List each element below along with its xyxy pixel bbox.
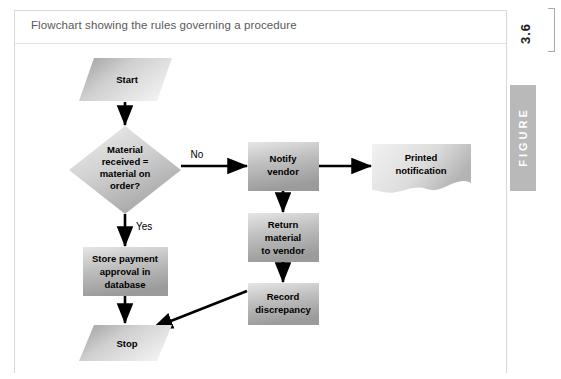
node-printed-label-line2: notification bbox=[395, 165, 446, 176]
node-decision-label-line1: Material bbox=[107, 144, 143, 155]
node-stop-label: Stop bbox=[116, 338, 137, 349]
node-store-label-line2: approval in bbox=[100, 266, 151, 277]
node-store-label-line3: database bbox=[104, 279, 145, 290]
node-decision-label-line2: received = bbox=[102, 156, 149, 167]
node-start-label: Start bbox=[116, 74, 138, 85]
node-decision-label-line3: material on bbox=[100, 168, 151, 179]
node-notify-label-line2: vendor bbox=[267, 166, 299, 177]
node-notify-label-line1: Notify bbox=[270, 153, 298, 164]
figure-number-text: 3.6 bbox=[518, 18, 533, 50]
node-stop[interactable]: Stop bbox=[79, 325, 172, 361]
flowchart-diagram: No Yes Start Material received = materia… bbox=[15, 44, 506, 373]
figure-frame: Flowchart showing the rules governing a … bbox=[14, 10, 507, 373]
node-record-label-line1: Record bbox=[267, 291, 300, 302]
node-record-label-line2: discrepancy bbox=[255, 304, 311, 315]
node-decision[interactable]: Material received = material on order? bbox=[69, 126, 181, 214]
flowchart-svg: No Yes Start Material received = materia… bbox=[15, 44, 508, 373]
node-decision-label-line4: order? bbox=[110, 180, 140, 191]
node-printed-notification[interactable]: Printed notification bbox=[372, 144, 471, 193]
edge-label-yes: Yes bbox=[136, 221, 152, 232]
node-store-label-line1: Store payment bbox=[92, 253, 159, 264]
edge-label-no: No bbox=[191, 149, 204, 160]
edge-record-to-stop bbox=[153, 291, 247, 328]
node-notify-vendor[interactable]: Notify vendor bbox=[248, 142, 319, 191]
figure-number: 3.6 bbox=[512, 8, 538, 60]
node-start[interactable]: Start bbox=[79, 58, 172, 101]
node-store-payment[interactable]: Store payment approval in database bbox=[83, 247, 168, 296]
node-printed-label-line1: Printed bbox=[405, 152, 438, 163]
figure-label-block: FIGURE bbox=[510, 85, 536, 191]
figure-label-text: FIGURE bbox=[517, 84, 529, 190]
figure-caption-text: Flowchart showing the rules governing a … bbox=[31, 19, 297, 31]
node-return-label-line1: Return bbox=[268, 219, 299, 230]
figure-bracket-icon bbox=[548, 8, 555, 52]
node-return-material[interactable]: Return material to vendor bbox=[248, 213, 319, 262]
node-record-discrepancy[interactable]: Record discrepancy bbox=[248, 283, 319, 325]
node-return-label-line2: material bbox=[265, 232, 301, 243]
figure-caption-bar: Flowchart showing the rules governing a … bbox=[15, 11, 506, 44]
node-return-label-line3: to vendor bbox=[261, 245, 305, 256]
